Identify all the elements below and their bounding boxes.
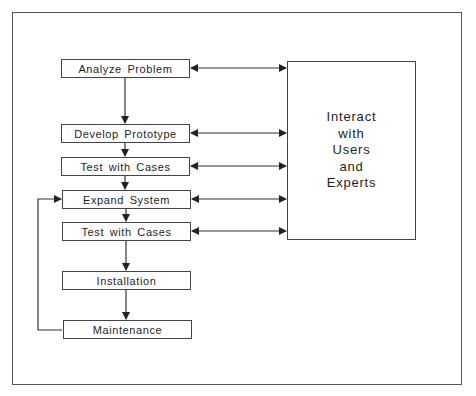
step-label: Installation bbox=[97, 275, 157, 287]
interact-users-experts-box: Interact with Users and Experts bbox=[287, 61, 416, 240]
step-expand-system: Expand System bbox=[62, 190, 191, 209]
interact-line: Experts bbox=[327, 175, 377, 192]
step-label: Test with Cases bbox=[80, 161, 170, 173]
step-label: Analyze Problem bbox=[78, 63, 172, 75]
step-label: Develop Prototype bbox=[74, 128, 177, 140]
step-label: Test with Cases bbox=[81, 226, 171, 238]
step-analyze-problem: Analyze Problem bbox=[61, 59, 190, 78]
step-label: Maintenance bbox=[93, 324, 163, 336]
interact-line: with bbox=[338, 126, 364, 143]
interact-line: Interact bbox=[327, 109, 377, 126]
step-test-with-cases-2: Test with Cases bbox=[62, 222, 191, 241]
step-maintenance: Maintenance bbox=[63, 320, 192, 339]
step-installation: Installation bbox=[62, 271, 191, 290]
interact-line: Users bbox=[333, 142, 371, 159]
step-develop-prototype: Develop Prototype bbox=[61, 124, 190, 143]
interact-line: and bbox=[339, 159, 363, 176]
step-test-with-cases-1: Test with Cases bbox=[61, 157, 190, 176]
step-label: Expand System bbox=[83, 194, 170, 206]
